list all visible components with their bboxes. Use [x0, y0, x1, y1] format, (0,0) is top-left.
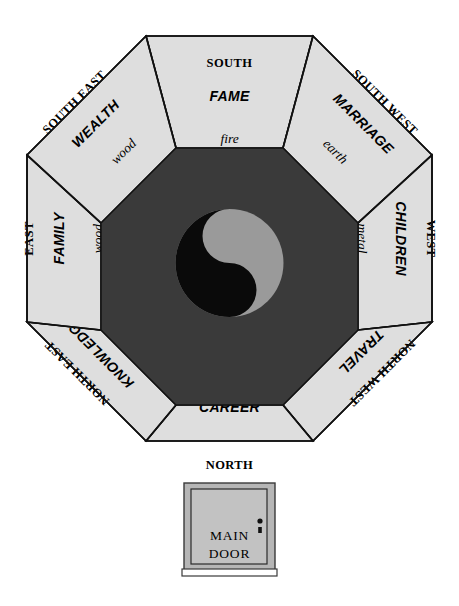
sector-south-aspect: FAME [209, 88, 249, 104]
door-label-line1: MAIN [210, 528, 249, 543]
sector-north-direction: NORTH [206, 458, 253, 472]
door-threshold [182, 569, 277, 576]
sector-south-direction: SOUTH [207, 56, 253, 70]
door-knob-icon[interactable] [257, 518, 262, 523]
sector-south-element: fire [220, 131, 238, 146]
yin-yang-symbol [176, 209, 284, 317]
sector-west-direction: WEST [424, 220, 438, 258]
sector-east-aspect: FAMILY [51, 211, 67, 264]
door-label-line2: DOOR [209, 546, 250, 561]
sector-east-direction: EAST [22, 221, 36, 256]
bagua-svg: SOUTH FAME fire SOUTH WEST MARRIAGE eart… [0, 0, 459, 606]
door-lock-icon[interactable] [258, 527, 262, 533]
sector-west-aspect: CHILDREN [393, 201, 409, 276]
bagua-diagram: SOUTH FAME fire SOUTH WEST MARRIAGE eart… [0, 0, 459, 606]
main-door[interactable]: MAIN DOOR [182, 483, 277, 576]
